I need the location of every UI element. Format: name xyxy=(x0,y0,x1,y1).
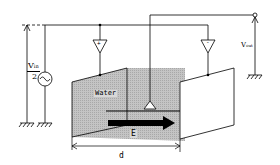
vin-subscript: in xyxy=(34,63,39,69)
field-label: E xyxy=(130,130,137,138)
distance-label: d xyxy=(119,152,124,160)
vin-label: Vin xyxy=(28,62,39,70)
water-region xyxy=(72,68,185,141)
ground-icon xyxy=(19,123,52,127)
vin-denominator: 2 xyxy=(32,73,37,81)
circuit-diagram xyxy=(0,0,280,165)
plus-sign: + xyxy=(97,40,101,46)
vout-subscript: out xyxy=(246,43,253,48)
field-arrow xyxy=(108,120,163,126)
right-electrode-plate xyxy=(180,68,234,139)
minus-sign: - xyxy=(206,39,210,45)
water-label: Water xyxy=(94,90,117,97)
vout-label: Vout xyxy=(241,42,253,49)
ground-icon xyxy=(247,75,262,79)
